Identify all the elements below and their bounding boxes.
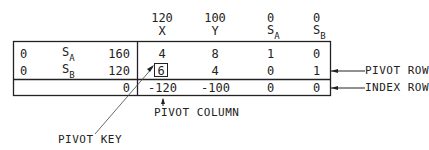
var-y: Y <box>200 25 230 37</box>
pivot-row-label: PIVOT ROW <box>365 65 429 77</box>
basis-var: SB <box>62 63 75 76</box>
pivot-key-label: PIVOT KEY <box>58 134 122 146</box>
cb-value: 0 <box>20 65 27 77</box>
var-x: X <box>147 25 177 37</box>
coef-y: 100 <box>200 12 230 24</box>
cell-y: 8 <box>200 48 230 60</box>
basis-var: SA <box>62 46 75 59</box>
cell-sa: 1 <box>267 48 274 60</box>
var-sb: SB <box>313 24 326 37</box>
rhs-value: 160 <box>100 48 130 60</box>
cell-y: -100 <box>201 82 230 94</box>
cell-sb: 0 <box>313 82 320 94</box>
cell-x: -120 <box>148 82 177 94</box>
cb-value: 0 <box>20 48 27 60</box>
pivot-column-label: PIVOT COLUMN <box>154 107 239 119</box>
index-row-label: INDEX ROW <box>365 82 429 94</box>
cell-sb: 0 <box>313 48 320 60</box>
coef-x: 120 <box>147 12 177 24</box>
cell-sa: 0 <box>267 82 274 94</box>
cell-sa: 0 <box>267 65 274 77</box>
cell-sb: 1 <box>313 65 320 77</box>
pivot-key-cell: 6 <box>146 65 176 77</box>
rhs-value: 0 <box>100 82 130 94</box>
cell-y: 4 <box>200 65 230 77</box>
cell-x: 4 <box>147 48 177 60</box>
var-sa: SA <box>267 24 280 37</box>
rhs-value: 120 <box>100 65 130 77</box>
